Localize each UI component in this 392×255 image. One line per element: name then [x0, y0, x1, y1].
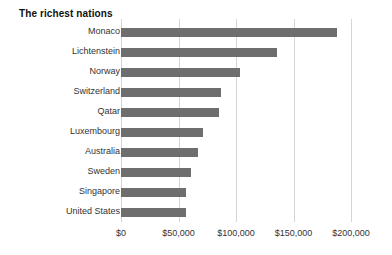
bar-sweden	[121, 168, 191, 177]
bar-category-label: Qatar	[10, 106, 120, 116]
bar-luxembourg	[121, 128, 203, 137]
bar-row: Sweden	[0, 163, 392, 183]
bar-chart: The richest nations MonacoLichtensteinNo…	[0, 0, 392, 255]
bar-row: Switzerland	[0, 83, 392, 103]
x-axis-tick-labels: $0$50,000$100,000$150,000$200,000	[0, 228, 392, 244]
bar-category-label: Australia	[10, 146, 120, 156]
bar-row: Norway	[0, 63, 392, 83]
bar-qatar	[121, 108, 219, 117]
bar-row: Singapore	[0, 183, 392, 203]
bar-singapore	[121, 188, 186, 197]
bars-layer: MonacoLichtensteinNorwaySwitzerlandQatar…	[0, 0, 392, 255]
bar-switzerland	[121, 88, 221, 97]
bar-category-label: Luxembourg	[10, 126, 120, 136]
bar-row: United States	[0, 203, 392, 223]
bar-category-label: Singapore	[10, 186, 120, 196]
bar-category-label: Norway	[10, 66, 120, 76]
bar-category-label: United States	[10, 206, 120, 216]
bar-monaco	[121, 28, 337, 37]
bar-united-states	[121, 208, 186, 217]
bar-australia	[121, 148, 198, 157]
bar-lichtenstein	[121, 48, 277, 57]
x-tick-label-200000: $200,000	[316, 228, 386, 238]
bar-category-label: Lichtenstein	[10, 46, 120, 56]
bar-row: Qatar	[0, 103, 392, 123]
bar-row: Luxembourg	[0, 123, 392, 143]
bar-category-label: Monaco	[10, 26, 120, 36]
bar-row: Monaco	[0, 23, 392, 43]
bar-category-label: Sweden	[10, 166, 120, 176]
bar-category-label: Switzerland	[10, 86, 120, 96]
plot-area: MonacoLichtensteinNorwaySwitzerlandQatar…	[0, 0, 392, 255]
bar-row: Australia	[0, 143, 392, 163]
bar-norway	[121, 68, 240, 77]
bar-row: Lichtenstein	[0, 43, 392, 63]
